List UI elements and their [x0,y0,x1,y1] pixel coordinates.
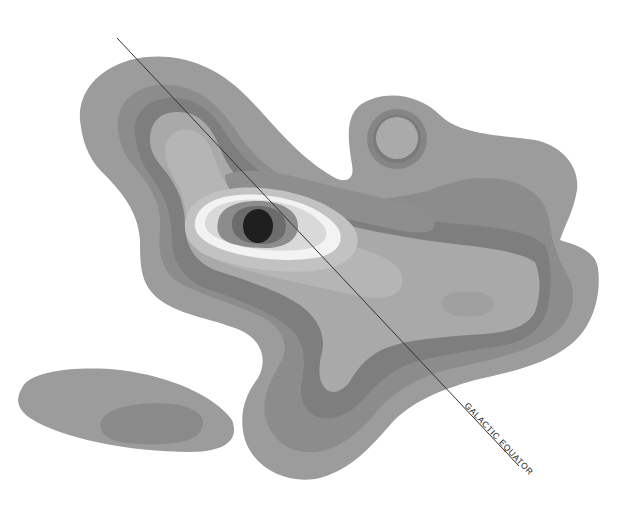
detached-cloud [18,369,234,452]
eastern-faint-blob [441,292,494,317]
source-core [243,209,273,243]
compact-core [376,117,418,159]
galactic-equator-label: GALACTIC EQUATOR [463,401,536,478]
compact-circular-source [367,109,427,169]
galactic-contour-map: GALACTIC EQUATOR [0,0,630,512]
cloud-inner-contour [101,403,203,444]
